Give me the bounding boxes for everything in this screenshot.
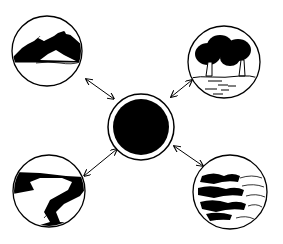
trees-icon (190, 35, 259, 94)
mountain-icon (10, 30, 86, 64)
arrow-center-mountains (86, 79, 114, 99)
central-hub (108, 94, 174, 160)
waves-icon (198, 174, 265, 222)
node-ocean (193, 155, 267, 229)
arrow-center-forest (171, 80, 192, 97)
node-forest (188, 26, 260, 98)
node-river (12, 155, 86, 232)
arrow-center-ocean (174, 146, 203, 166)
node-mountains (10, 16, 86, 86)
river-icon (12, 172, 86, 232)
hub-black-disc-icon (113, 99, 169, 155)
hub-diagram (0, 0, 283, 244)
arrow-center-river (84, 149, 117, 176)
